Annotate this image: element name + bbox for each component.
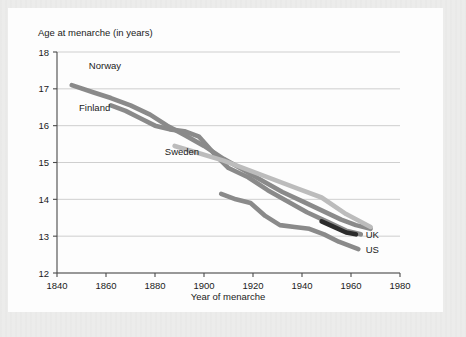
y-tick-label-14: 14 xyxy=(38,194,49,205)
x-tick-label-1880: 1880 xyxy=(144,280,165,291)
data-series xyxy=(72,85,371,249)
tick-labels: 1213141516171818401860188019001920194019… xyxy=(38,47,410,292)
y-tick-label-16: 16 xyxy=(38,120,49,131)
x-tick-label-1860: 1860 xyxy=(95,280,116,291)
x-tick-label-1920: 1920 xyxy=(242,280,263,291)
series-label-norway: Norway xyxy=(89,60,121,71)
series-label-uk: UK xyxy=(366,229,380,240)
y-axis-label: Age at menarche (in years) xyxy=(38,27,153,38)
x-tick-label-1980: 1980 xyxy=(389,280,410,291)
series-label-sweden: Sweden xyxy=(165,146,199,157)
x-tick-label-1940: 1940 xyxy=(291,280,312,291)
x-tick-label-1960: 1960 xyxy=(340,280,361,291)
x-tick-label-1900: 1900 xyxy=(193,280,214,291)
x-tick-label-1840: 1840 xyxy=(46,280,67,291)
y-tick-label-15: 15 xyxy=(38,157,49,168)
figure-root: 1213141516171818401860188019001920194019… xyxy=(0,0,466,337)
series-line-finland xyxy=(111,105,361,234)
series-label-us: US xyxy=(366,244,379,255)
x-axis-label: Year of menarche xyxy=(191,291,266,302)
y-tick-label-17: 17 xyxy=(38,83,49,94)
menarche-line-chart: 1213141516171818401860188019001920194019… xyxy=(0,0,466,337)
y-tick-label-12: 12 xyxy=(38,268,49,279)
y-tick-label-18: 18 xyxy=(38,47,49,58)
y-tick-label-13: 13 xyxy=(38,231,49,242)
series-label-finland: Finland xyxy=(79,102,110,113)
